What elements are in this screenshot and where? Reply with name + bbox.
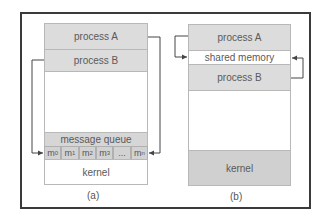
arrow-process-b-to-m0: [32, 60, 44, 153]
connector-arrows: [0, 0, 329, 224]
arrow-process-a-to-shared: [175, 36, 188, 57]
arrow-process-a-to-mn: [148, 37, 160, 153]
arrow-process-b-to-shared: [291, 58, 303, 78]
